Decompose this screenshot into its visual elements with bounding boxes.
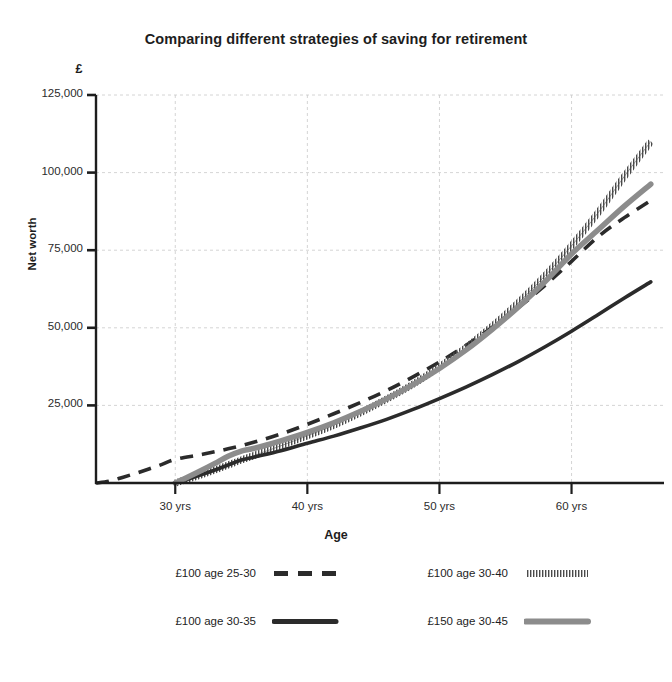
x-tick-label: 30 yrs bbox=[130, 500, 220, 512]
y-tick-label: 75,000 bbox=[0, 242, 83, 254]
axes bbox=[87, 95, 664, 494]
y-tick-label: 125,000 bbox=[0, 87, 83, 99]
y-tick-label: 50,000 bbox=[0, 320, 83, 332]
legend-item-label: £150 age 30-45 bbox=[348, 615, 524, 627]
x-tick-label: 40 yrs bbox=[262, 500, 352, 512]
legend-item-label: £100 age 30-40 bbox=[348, 567, 524, 579]
chart-title: Comparing different strategies of saving… bbox=[0, 31, 672, 47]
series-line-4 bbox=[175, 184, 651, 483]
series-line-1 bbox=[96, 201, 651, 483]
legend-item[interactable]: £100 age 30-35 bbox=[96, 610, 350, 632]
legend-swatch-solid bbox=[272, 614, 350, 628]
legend-swatch-dashed bbox=[272, 566, 350, 580]
legend-swatch-hatched bbox=[524, 566, 602, 580]
y-tick-label: 25,000 bbox=[0, 397, 83, 409]
chart-figure: Comparing different strategies of saving… bbox=[0, 0, 672, 682]
gridlines bbox=[96, 95, 664, 483]
series-group bbox=[96, 142, 651, 483]
series-line-2 bbox=[175, 142, 651, 483]
y-axis-currency-symbol: £ bbox=[62, 62, 96, 76]
chart-legend: £100 age 25-30£100 age 30-40£100 age 30-… bbox=[96, 562, 596, 658]
legend-item[interactable]: £100 age 25-30 bbox=[96, 562, 350, 584]
x-tick-label: 50 yrs bbox=[394, 500, 484, 512]
legend-item[interactable]: £100 age 30-40 bbox=[348, 562, 602, 584]
legend-item-label: £100 age 25-30 bbox=[96, 567, 272, 579]
x-tick-label: 60 yrs bbox=[527, 500, 617, 512]
legend-item[interactable]: £150 age 30-45 bbox=[348, 610, 602, 632]
legend-swatch-thick-grey bbox=[524, 614, 602, 628]
y-tick-label: 100,000 bbox=[0, 165, 83, 177]
legend-item-label: £100 age 30-35 bbox=[96, 615, 272, 627]
x-axis-label: Age bbox=[0, 528, 672, 542]
